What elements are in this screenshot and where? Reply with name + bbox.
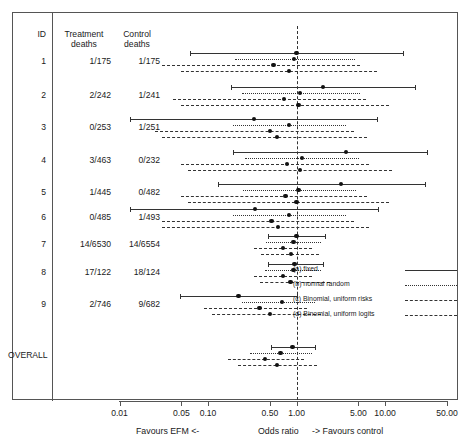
confidence-interval-line [162, 221, 355, 222]
axis-tick [120, 401, 121, 406]
row-id-label: 7 [22, 239, 46, 249]
interval-cap [427, 150, 428, 155]
interval-cap [180, 294, 181, 299]
row-control-deaths: 18/124 [114, 267, 160, 277]
legend-item-line-sample [405, 300, 457, 301]
row-id-label: 3 [22, 122, 46, 132]
legend-item-label: (b) normal random [293, 280, 350, 287]
confidence-interval-line [181, 164, 368, 165]
interval-cap [268, 234, 269, 239]
confidence-interval-line [181, 105, 388, 106]
interval-cap [130, 207, 131, 212]
point-estimate-marker [296, 188, 300, 192]
row-control-deaths: 14/6554 [114, 239, 160, 249]
axis-title: Odds ratio [258, 426, 299, 436]
interval-cap [315, 345, 316, 350]
point-estimate-marker [294, 51, 298, 55]
row-treatment-deaths: 0/253 [57, 122, 111, 132]
axis-tick [270, 401, 271, 406]
row-id-label: 9 [22, 299, 46, 309]
row-id-label: 6 [22, 212, 46, 222]
legend-item: (d) Binomial, uniform logits [293, 308, 458, 320]
confidence-interval-line [173, 99, 366, 100]
interval-cap [271, 345, 272, 350]
column-header-treatment-line2: deaths [57, 40, 111, 50]
point-estimate-marker [289, 252, 293, 256]
confidence-interval-line [181, 196, 366, 197]
confidence-interval-line [155, 131, 354, 132]
interval-cap [325, 234, 326, 239]
axis-tick [385, 401, 386, 406]
row-treatment-deaths: 14/6530 [57, 239, 111, 249]
column-header-control-line2: deaths [114, 40, 160, 50]
point-estimate-marker [271, 63, 275, 67]
point-estimate-marker [294, 234, 298, 238]
axis-tick-label: 10.00 [374, 408, 396, 418]
row-treatment-deaths: 2/242 [57, 90, 111, 100]
column-divider [52, 12, 53, 401]
interval-cap [130, 117, 131, 122]
confidence-interval-line [162, 137, 367, 138]
legend-item-label: (a) fixed [293, 265, 318, 272]
axis-tick-label: 0.10 [200, 408, 217, 418]
interval-cap [218, 182, 219, 187]
interval-cap [233, 150, 234, 155]
point-estimate-marker [278, 351, 282, 355]
row-control-deaths: 1/175 [114, 56, 160, 66]
confidence-interval-line [181, 71, 376, 72]
interval-cap [231, 85, 232, 90]
interval-cap [377, 117, 378, 122]
point-estimate-marker [236, 294, 240, 298]
row-id-label: 2 [22, 90, 46, 100]
column-header-id: ID [22, 30, 46, 40]
legend-item: (a) fixed [293, 263, 458, 275]
legend: (a) fixed(b) normal random(c) Binomial, … [293, 263, 458, 325]
legend-item-label: (d) Binomial, uniform logits [293, 310, 375, 317]
row-treatment-deaths: 1/175 [57, 56, 111, 66]
axis-note-right: -> Favours control [312, 426, 383, 436]
row-id-label: OVERALL [8, 350, 46, 360]
row-id-label: 8 [22, 267, 46, 277]
axis-tick-label: 5.00 [350, 408, 367, 418]
axis-tick [297, 401, 298, 406]
row-treatment-deaths: 2/746 [57, 299, 111, 309]
confidence-interval-line [233, 152, 428, 153]
axis-note-left: Favours EFM <- [136, 426, 199, 436]
x-axis [119, 401, 447, 402]
point-estimate-marker [294, 200, 298, 204]
interval-cap [415, 85, 416, 90]
legend-item-label: (c) Binomial, uniform risks [293, 295, 372, 302]
point-estimate-marker [296, 103, 300, 107]
row-id-label: 1 [22, 56, 46, 66]
row-treatment-deaths: 0/485 [57, 212, 111, 222]
interval-cap [403, 51, 404, 56]
row-control-deaths: 1/251 [114, 122, 160, 132]
point-estimate-marker [288, 280, 292, 284]
point-estimate-marker [290, 345, 294, 349]
point-estimate-marker [269, 219, 273, 223]
point-estimate-marker [291, 240, 295, 244]
forest-plot: ID Treatment deaths Control deaths 11/17… [0, 0, 469, 448]
row-id-label: 4 [22, 155, 46, 165]
point-estimate-marker [257, 306, 261, 310]
row-id-label: 5 [22, 187, 46, 197]
column-header-control: Control deaths [114, 30, 160, 49]
confidence-interval-line [188, 202, 388, 203]
row-treatment-deaths: 1/445 [57, 187, 111, 197]
point-estimate-marker [280, 300, 284, 304]
row-control-deaths: 1/493 [114, 212, 160, 222]
confidence-interval-line [188, 170, 392, 171]
legend-item-line-sample [405, 285, 457, 286]
axis-tick [208, 401, 209, 406]
row-control-deaths: 1/241 [114, 90, 160, 100]
row-treatment-deaths: 3/463 [57, 155, 111, 165]
axis-tick [181, 401, 182, 406]
column-header-treatment: Treatment deaths [57, 30, 111, 49]
interval-cap [378, 207, 379, 212]
legend-item: (c) Binomial, uniform risks [293, 293, 458, 305]
axis-tick [358, 401, 359, 406]
axis-tick-label: 1.00 [288, 408, 305, 418]
row-treatment-deaths: 17/122 [57, 267, 111, 277]
point-estimate-marker [292, 57, 296, 61]
legend-item-line-sample [405, 270, 457, 271]
